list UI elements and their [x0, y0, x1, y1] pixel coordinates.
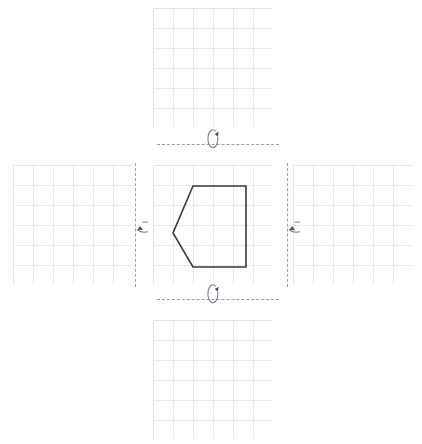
rotate-arrow-icon [204, 281, 222, 307]
rotate-arrow-icon-glyph [204, 281, 222, 307]
figure-canvas [0, 0, 422, 444]
grid-lines-center [153, 165, 273, 285]
rotate-arrow-icon [122, 216, 148, 234]
grid-panel-left [13, 165, 133, 285]
grid-panel-right [293, 165, 413, 285]
rotate-arrow-icon [204, 126, 222, 152]
grid-lines-right [293, 165, 413, 285]
grid-lines-top [153, 8, 273, 128]
grid-lines-left [13, 165, 133, 285]
rotate-arrow-icon [274, 216, 300, 234]
grid-panel-top [153, 8, 273, 128]
rotate-arrow-icon-glyph [204, 126, 222, 152]
grid-panel-bottom [153, 320, 273, 440]
rotate-arrow-icon-glyph [122, 216, 148, 234]
grid-lines-bottom [153, 320, 273, 440]
grid-panel-center [153, 165, 273, 285]
rotate-arrow-icon-glyph [274, 216, 300, 234]
